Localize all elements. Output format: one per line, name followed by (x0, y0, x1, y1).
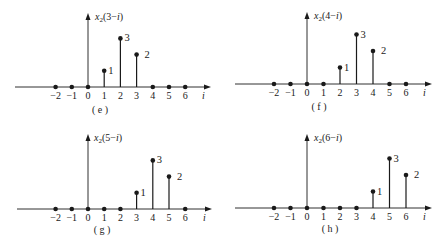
stem-value-label: 3 (361, 29, 366, 40)
panel-caption: ( e ) (92, 104, 108, 116)
stem-marker (86, 207, 91, 212)
stem-marker (151, 158, 156, 163)
x-tick-label: −2 (50, 212, 61, 223)
y-axis-label: x2(3−i) (94, 11, 123, 24)
stem-value-label: 1 (108, 65, 113, 76)
stem-marker (338, 65, 343, 70)
y-axis-arrow-icon (86, 13, 91, 20)
x-tick-label: 6 (183, 90, 188, 101)
x-tick-label: 0 (86, 212, 91, 223)
stem-marker (134, 52, 139, 57)
x-tick-label: 3 (354, 87, 359, 98)
stem-marker (305, 82, 310, 87)
x-tick-label: 0 (86, 90, 91, 101)
stem-marker (321, 206, 326, 211)
x-tick-label: 3 (354, 211, 359, 222)
x-tick-label: −2 (50, 90, 61, 101)
x-tick-label: −1 (285, 87, 296, 98)
x-tick-label: 3 (134, 90, 139, 101)
panel-caption: ( g ) (94, 224, 111, 236)
stem-value-label: 3 (157, 154, 162, 165)
stem-marker (183, 207, 188, 212)
stem-marker (272, 206, 277, 211)
x-tick-label: −1 (285, 211, 296, 222)
stem-marker (86, 85, 91, 90)
x-tick-label: 1 (321, 87, 326, 98)
x-tick-label: 2 (118, 90, 123, 101)
x-axis-arrow-icon (425, 82, 432, 87)
stem-marker (70, 85, 75, 90)
x-tick-label: 6 (183, 212, 188, 223)
panel-caption: ( f ) (312, 101, 327, 113)
x-tick-label: 5 (167, 212, 172, 223)
stem-value-label: 2 (177, 171, 182, 182)
stem-panel-g: x2(5−i)−2−10123456132i( g ) (17, 132, 212, 236)
stem-value-label: 1 (344, 62, 349, 73)
stem-marker (272, 82, 277, 87)
x-tick-label: 3 (134, 212, 139, 223)
stem-panel-f: x2(4−i)−2−10123456132i( f ) (235, 10, 432, 113)
stem-value-label: 3 (394, 153, 399, 164)
y-axis-arrow-icon (86, 134, 91, 141)
x-axis-label: i (202, 90, 205, 101)
stem-marker (387, 156, 392, 161)
y-axis-arrow-icon (305, 12, 310, 19)
stem-marker (371, 49, 376, 54)
stem-plot-figure: x2(3−i)−2−10123456132i( e )x2(4−i)−2−101… (0, 0, 439, 247)
panel-caption: ( h ) (322, 223, 339, 235)
stem-marker (371, 189, 376, 194)
stem-marker (102, 207, 107, 212)
stem-plots-canvas: x2(3−i)−2−10123456132i( e )x2(4−i)−2−101… (0, 0, 439, 247)
y-axis-arrow-icon (305, 134, 310, 141)
x-tick-label: 6 (404, 87, 409, 98)
stem-value-label: 1 (141, 187, 146, 198)
stem-value-label: 1 (377, 186, 382, 197)
stem-marker (151, 85, 156, 90)
stem-value-label: 2 (414, 169, 419, 180)
stem-marker (404, 173, 409, 178)
stem-panel-e: x2(3−i)−2−10123456132i( e ) (15, 11, 211, 116)
x-tick-label: 2 (338, 87, 343, 98)
stem-marker (288, 82, 293, 87)
x-tick-label: 0 (305, 211, 310, 222)
x-axis-label: i (423, 211, 426, 222)
x-axis-arrow-icon (204, 85, 211, 90)
x-tick-label: 2 (338, 211, 343, 222)
x-tick-label: 5 (387, 87, 392, 98)
x-tick-label: 1 (102, 212, 107, 223)
y-axis-label: x2(6−i) (313, 132, 342, 145)
x-tick-label: 0 (305, 87, 310, 98)
stem-marker (354, 32, 359, 37)
stem-marker (404, 82, 409, 87)
stem-marker (354, 206, 359, 211)
x-tick-label: 5 (167, 90, 172, 101)
x-tick-label: 6 (404, 211, 409, 222)
stem-value-label: 3 (124, 32, 129, 43)
stem-marker (321, 82, 326, 87)
x-tick-label: 1 (102, 90, 107, 101)
stem-marker (288, 206, 293, 211)
stem-marker (53, 207, 58, 212)
x-tick-label: −2 (269, 211, 280, 222)
stem-panel-h: x2(6−i)−2−10123456132i( h ) (235, 132, 432, 235)
stem-marker (167, 174, 172, 179)
x-tick-label: 5 (387, 211, 392, 222)
x-tick-label: −2 (269, 87, 280, 98)
x-tick-label: −1 (66, 212, 77, 223)
x-tick-label: 4 (150, 212, 155, 223)
x-tick-label: 4 (371, 87, 376, 98)
stem-marker (118, 207, 123, 212)
x-tick-label: 4 (150, 90, 155, 101)
x-tick-label: 2 (118, 212, 123, 223)
stem-marker (338, 206, 343, 211)
stem-marker (53, 85, 58, 90)
stem-marker (183, 85, 188, 90)
stem-marker (305, 206, 310, 211)
stem-marker (134, 191, 139, 196)
y-axis-label: x2(5−i) (93, 132, 122, 145)
stem-value-label: 2 (381, 45, 386, 56)
x-axis-arrow-icon (425, 206, 432, 211)
stem-marker (167, 85, 172, 90)
x-tick-label: −1 (66, 90, 77, 101)
stem-marker (118, 36, 123, 41)
